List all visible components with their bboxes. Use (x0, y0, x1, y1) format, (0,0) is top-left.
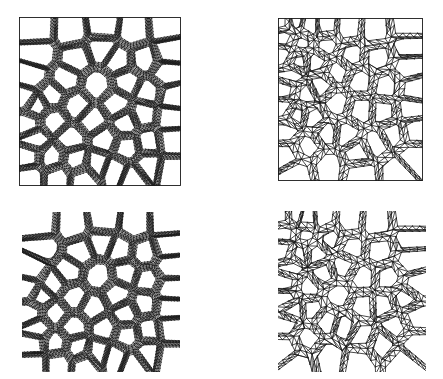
panel-top-left (19, 17, 181, 186)
mesh-edges (278, 18, 423, 181)
panel-bottom-right (278, 211, 426, 372)
mesh-edges (22, 212, 180, 372)
panel-bottom-left (22, 212, 180, 372)
mesh-edges (19, 17, 181, 186)
mesh-figure (0, 0, 443, 379)
panel-top-right (278, 18, 423, 181)
mesh-edges (278, 211, 426, 372)
